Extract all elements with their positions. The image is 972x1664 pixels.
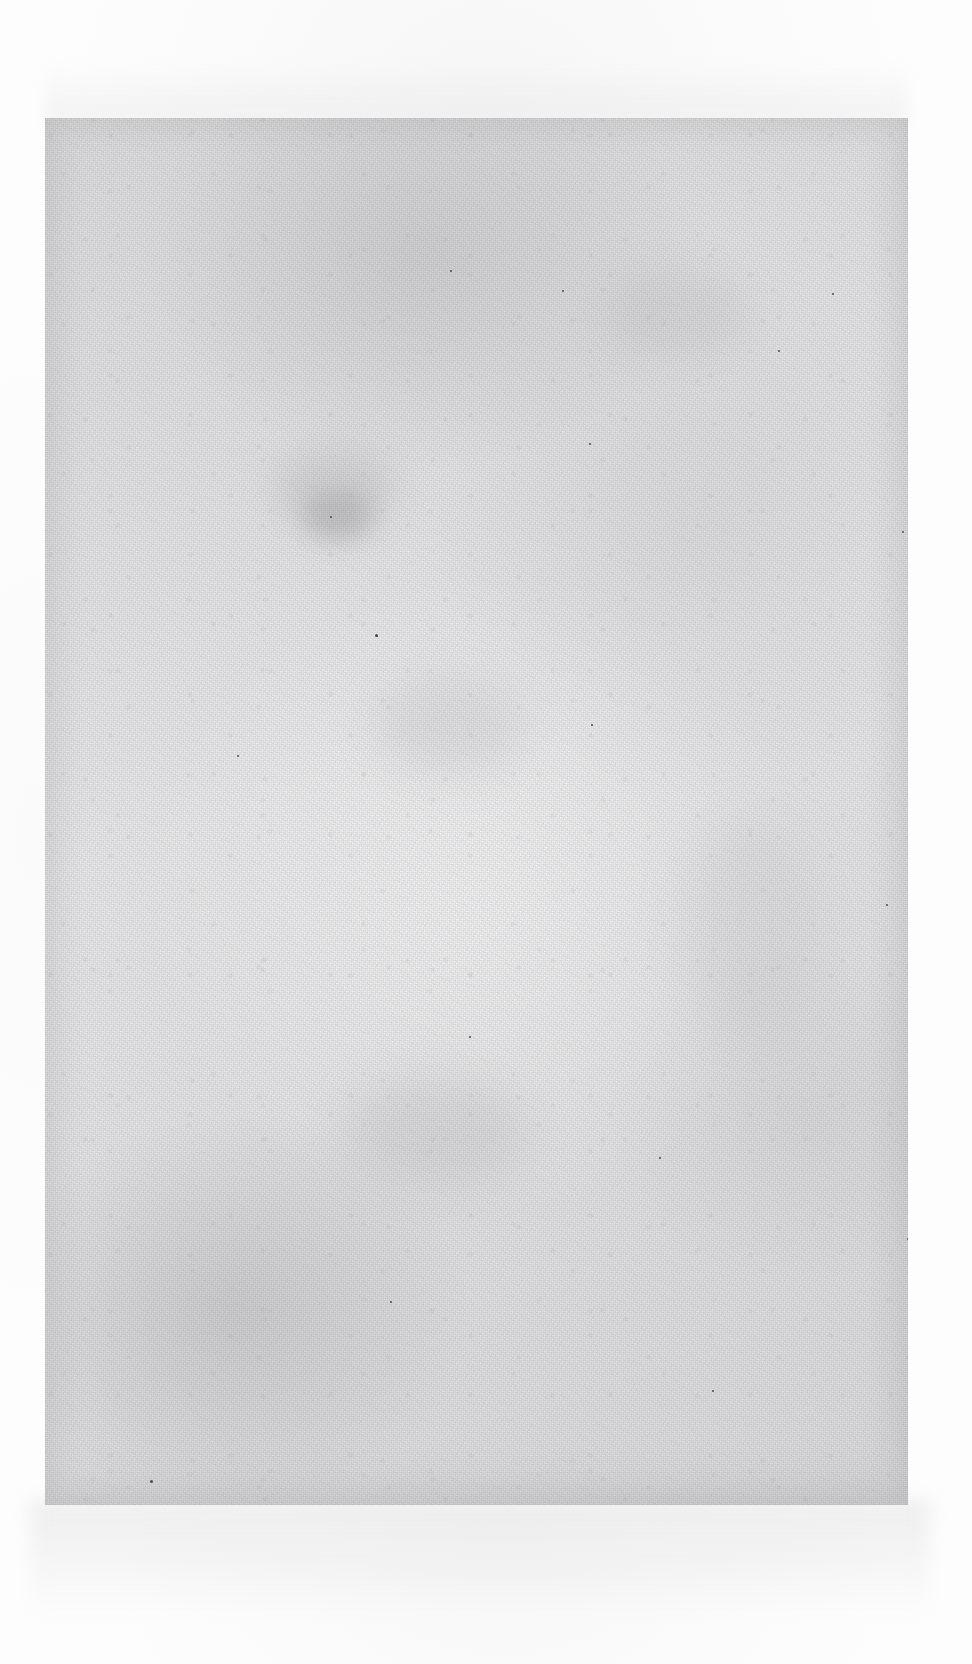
faint-stain-upper-left (275, 448, 395, 528)
dust-speck (330, 516, 332, 518)
dust-speck (886, 904, 888, 906)
dust-speck (390, 1301, 392, 1303)
dust-speck (907, 1238, 908, 1240)
dust-speck (591, 724, 593, 726)
faint-stain-lower-center (345, 1078, 525, 1188)
page-edge-vignette (45, 118, 908, 1505)
dust-speck (376, 635, 378, 637)
dust-speck (778, 350, 780, 352)
faint-stain-center-left (303, 490, 373, 542)
scan-viewport (0, 0, 972, 1664)
dust-speck (712, 1390, 714, 1392)
dust-speck (450, 270, 452, 272)
dust-speck (832, 293, 834, 295)
dust-speck (589, 443, 591, 445)
dust-speck (150, 1480, 153, 1483)
dust-speck (902, 531, 904, 533)
dust-speck (659, 1157, 661, 1159)
scanned-page-sheet (45, 118, 908, 1505)
dust-speck (469, 1036, 471, 1038)
dust-speck (375, 634, 378, 637)
faint-stain-upper-right (605, 268, 745, 358)
dust-speck (562, 290, 564, 292)
paper-fibre-layer (45, 118, 908, 1505)
faint-stain-mid-page (375, 678, 525, 773)
faint-stain-right-band (685, 818, 815, 1038)
paper-tone-layer (45, 118, 908, 1505)
dust-speck (237, 755, 239, 757)
paper-grain-layer (45, 118, 908, 1505)
